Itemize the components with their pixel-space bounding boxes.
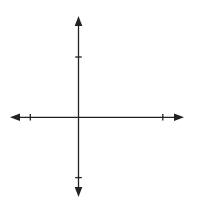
x-axis-left-arrow-icon [10, 114, 20, 122]
coordinate-plane [0, 0, 197, 204]
x-axis-right-arrow-icon [174, 114, 184, 122]
y-axis-down-arrow-icon [75, 187, 83, 197]
y-axis-up-arrow-icon [75, 16, 83, 26]
